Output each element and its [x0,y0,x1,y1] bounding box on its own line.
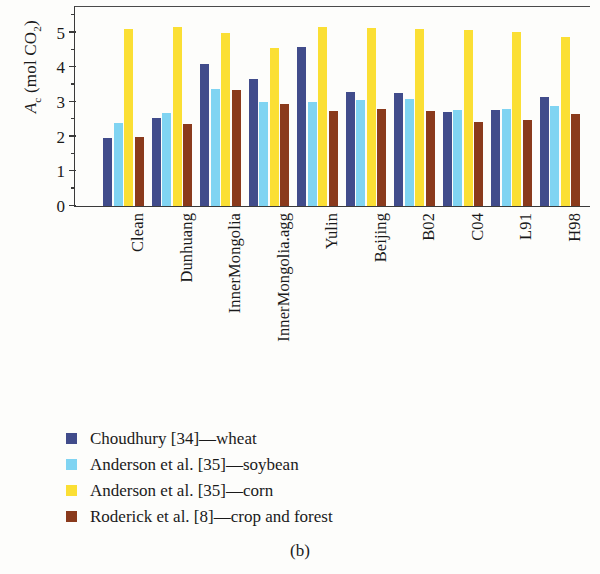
y-axis-title-subscript: c [31,98,43,103]
bar [367,28,376,206]
bar [270,48,279,206]
bar [308,102,317,206]
bar [550,106,559,206]
legend: Choudhury [34]—wheatAnderson et al. [35]… [66,425,333,529]
bar [200,64,209,206]
y-axis-title-unit-open: (mol CO [21,32,40,98]
legend-item-label: Anderson et al. [35]—soybean [90,456,299,473]
bar [114,123,123,206]
x-axis-tick-label: H98 [565,213,585,242]
bar [103,138,112,206]
bar-group [152,7,194,206]
x-axis-tick-label: C04 [468,213,488,241]
bar [346,92,355,206]
y-axis-tick-label: 2 [57,128,66,145]
bar [464,30,473,206]
bar [183,124,192,206]
bar [135,137,144,206]
bar [561,37,570,206]
x-axis-tick-label: Dunhuang [177,213,197,283]
bar [426,111,435,206]
legend-item: Anderson et al. [35]—corn [66,477,333,503]
bar [297,47,306,206]
bar-group [200,7,242,206]
bar [405,99,414,206]
bar-group [346,7,388,206]
y-axis-tick-label: 3 [57,94,66,111]
legend-item-label: Roderick et al. [8]—crop and forest [90,508,333,525]
bar [221,33,230,206]
figure-caption: (b) [0,541,600,561]
figure-panel-b: Ac (mol CO2) 012345 CleanDunhuangInnerMo… [0,0,600,574]
y-axis-tick-label: 5 [57,24,66,41]
bar [491,110,500,206]
legend-item-label: Anderson et al. [35]—corn [90,482,273,499]
bar [329,111,338,206]
bar [377,109,386,206]
bar [211,89,220,206]
bar-group [103,7,145,206]
bar-group [394,7,436,206]
legend-item-label: Choudhury [34]—wheat [90,430,257,447]
bar [512,32,521,206]
bar [571,114,580,206]
bar-group [540,7,582,206]
bar-group [297,7,339,206]
bar [356,100,365,206]
bar [318,27,327,206]
legend-item: Choudhury [34]—wheat [66,425,333,451]
bar [443,112,452,206]
legend-swatch-anderson-corn [66,485,77,496]
y-axis-tick-label: 4 [57,59,66,76]
bar [152,118,161,206]
bar-series-container [75,7,590,206]
bar-group [443,7,485,206]
y-axis-title: Ac (mol CO2) [21,0,42,157]
y-axis-tick-label: 0 [57,198,66,215]
legend-swatch-anderson-soybean [66,459,77,470]
bar [415,29,424,206]
bar-group [491,7,533,206]
x-axis-tick-label: Beijing [371,213,391,262]
legend-item: Roderick et al. [8]—crop and forest [66,503,333,529]
bar [173,27,182,207]
bar [232,90,241,206]
bar [523,120,532,206]
y-axis-title-unit-close: ) [21,20,40,26]
x-axis-tick-label: InnerMongolia [225,213,245,313]
x-axis-tick-label: Clean [128,213,148,252]
y-axis-title-symbol: A [21,103,40,114]
bar [502,109,511,206]
bar [394,93,403,206]
x-axis-tick-label: L91 [516,213,536,240]
bar [124,29,133,206]
bar [162,113,171,206]
x-axis-tick-label: InnerMongolia.agg [274,213,294,342]
bar-group [249,7,291,206]
bar [280,104,289,206]
bar [540,97,549,206]
bar [249,79,258,206]
bar [259,102,268,206]
bar [453,110,462,206]
y-axis-title-co2-subscript: 2 [31,26,43,32]
x-axis-tick-label: B02 [419,213,439,241]
bar [474,122,483,206]
legend-swatch-roderick [66,511,77,522]
plot-area: 012345 [74,6,590,207]
x-axis-tick-label: Yulin [322,213,342,249]
legend-swatch-choudhury [66,433,77,444]
y-axis-tick-label: 1 [57,163,66,180]
legend-item: Anderson et al. [35]—soybean [66,451,333,477]
